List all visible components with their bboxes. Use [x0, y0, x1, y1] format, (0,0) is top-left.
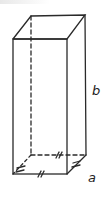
height-label-b: b: [92, 84, 100, 97]
side-label-a: a: [88, 171, 96, 184]
bottom-right-edge: [67, 155, 86, 174]
back-right-edge: [85, 15, 86, 155]
top-face: [13, 15, 85, 39]
front-face: [13, 39, 67, 174]
